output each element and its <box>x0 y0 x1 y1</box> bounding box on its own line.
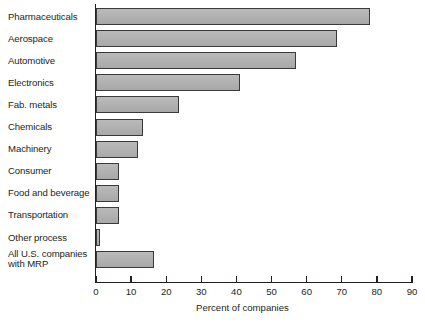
x-axis-tick <box>271 276 272 283</box>
x-axis-tick-label: 10 <box>116 286 146 297</box>
bar <box>96 163 119 180</box>
x-axis-tick <box>341 276 342 283</box>
bar-chart: PharmaceuticalsAerospaceAutomotiveElectr… <box>0 0 425 322</box>
bar-row: All U.S. companies with MRP <box>0 251 425 268</box>
x-axis-tick-label: 50 <box>257 286 287 297</box>
bar-row: Automotive <box>0 52 425 69</box>
bar <box>96 30 337 47</box>
bar <box>96 251 154 268</box>
x-axis-tick <box>95 276 96 283</box>
x-axis-tick <box>130 276 131 283</box>
bar <box>96 229 100 246</box>
bar-row: Aerospace <box>0 30 425 47</box>
bar <box>96 74 240 91</box>
x-axis-tick-label: 90 <box>397 286 425 297</box>
x-axis-tick <box>411 276 412 283</box>
x-axis-tick <box>201 276 202 283</box>
bar-category-label: Fab. metals <box>8 100 92 111</box>
bar-category-label: Chemicals <box>8 122 92 133</box>
x-axis-tick-label: 30 <box>186 286 216 297</box>
bar-row: Machinery <box>0 141 425 158</box>
x-axis-title: Percent of companies <box>0 302 425 313</box>
bar-category-label: Consumer <box>8 166 92 177</box>
x-axis-line <box>95 282 413 284</box>
bar-category-label: Machinery <box>8 144 92 155</box>
bar-row: Pharmaceuticals <box>0 8 425 25</box>
bar <box>96 207 119 224</box>
bar-category-label: Transportation <box>8 210 92 221</box>
y-axis-line <box>95 4 97 283</box>
bar-category-label: Aerospace <box>8 33 92 44</box>
bar-row: Food and beverage <box>0 185 425 202</box>
x-axis-tick-label: 40 <box>221 286 251 297</box>
bar-row: Consumer <box>0 163 425 180</box>
x-axis-tick <box>166 276 167 283</box>
bar-row: Electronics <box>0 74 425 91</box>
bar-row: Fab. metals <box>0 96 425 113</box>
bar-category-label: Food and beverage <box>8 188 92 199</box>
x-axis-tick-label: 20 <box>151 286 181 297</box>
x-axis-tick-label: 0 <box>81 286 111 297</box>
x-axis-tick <box>236 276 237 283</box>
x-axis-tick-label: 70 <box>327 286 357 297</box>
bar <box>96 119 143 136</box>
x-axis-tick <box>376 276 377 283</box>
bar-category-label: All U.S. companies with MRP <box>8 249 92 270</box>
bar-rows: PharmaceuticalsAerospaceAutomotiveElectr… <box>0 0 425 276</box>
bar <box>96 8 370 25</box>
bar-category-label: Automotive <box>8 55 92 66</box>
x-axis-tick-label: 80 <box>362 286 392 297</box>
x-axis-tick-label: 60 <box>292 286 322 297</box>
bar <box>96 185 119 202</box>
bar-category-label: Electronics <box>8 78 92 89</box>
bar-category-label: Other process <box>8 232 92 243</box>
bar <box>96 96 179 113</box>
bar <box>96 52 296 69</box>
bar-row: Chemicals <box>0 119 425 136</box>
x-axis-tick <box>306 276 307 283</box>
bar-row: Transportation <box>0 207 425 224</box>
bar <box>96 141 138 158</box>
bar-category-label: Pharmaceuticals <box>8 11 92 22</box>
bar-row: Other process <box>0 229 425 246</box>
